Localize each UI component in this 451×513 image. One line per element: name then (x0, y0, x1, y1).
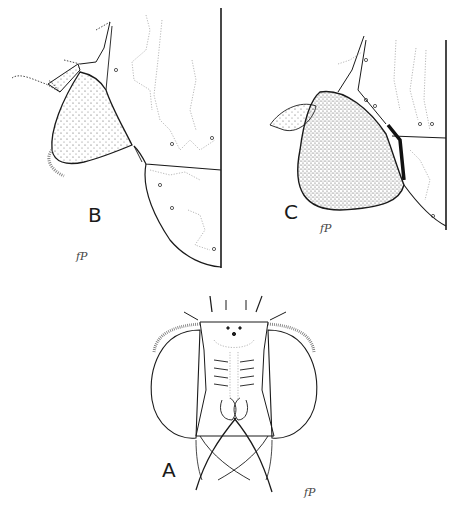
artist-monogram-b: fP (76, 250, 87, 263)
panel-label-a: A (162, 458, 176, 482)
panel-b-drawing (12, 8, 221, 268)
panel-label-b: B (88, 203, 102, 227)
panel-a-drawing (151, 296, 316, 492)
artist-monogram-a: fP (304, 486, 315, 499)
artist-monogram-c: fP (320, 222, 331, 235)
panel-label-c: C (284, 200, 298, 224)
illustration-plate (0, 0, 451, 513)
